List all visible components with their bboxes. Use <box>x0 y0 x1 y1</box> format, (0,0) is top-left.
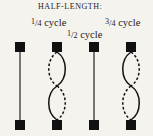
arc-lower-right <box>57 86 65 120</box>
node-square-bottom <box>52 120 62 130</box>
arc-upper-left <box>49 52 57 86</box>
node-square-bottom <box>89 120 99 130</box>
label-quarter-cycle: 1/4 cycle <box>31 18 66 29</box>
three-quarter-word: cycle <box>118 17 140 28</box>
standing-wave-diagram: HALF-LENGTH: 1/4 cycle 3/4 cycle 1/2 cyc… <box>0 0 153 136</box>
arc-lower-left <box>49 86 57 120</box>
node-square-bottom <box>15 120 25 130</box>
node-square-top <box>52 42 62 52</box>
arc-upper-left <box>123 52 131 86</box>
string-figures-svg <box>0 40 153 136</box>
node-square-bottom <box>126 120 136 130</box>
arc-upper-right <box>57 52 65 86</box>
node-square-top <box>15 42 25 52</box>
half-word: cycle <box>80 29 102 40</box>
quarter-word: cycle <box>44 17 66 28</box>
figure-double-lobe-string-a <box>49 42 66 130</box>
figure-straight-string <box>15 42 25 130</box>
label-half-cycle: 1/2 cycle <box>67 30 102 41</box>
half-denominator: 2 <box>74 31 78 40</box>
node-square-top <box>89 42 99 52</box>
arc-lower-right <box>131 86 139 120</box>
figure-straight-string-2 <box>89 42 99 130</box>
node-square-top <box>126 42 136 52</box>
arc-upper-right <box>131 52 139 86</box>
figure-double-lobe-string-b <box>123 42 140 130</box>
arc-lower-left <box>123 86 131 120</box>
diagram-title: HALF-LENGTH: <box>38 3 102 11</box>
label-three-quarter-cycle: 3/4 cycle <box>105 18 140 29</box>
three-quarter-denominator: 4 <box>112 19 116 28</box>
figures-layer <box>15 42 139 130</box>
quarter-denominator: 4 <box>38 19 42 28</box>
